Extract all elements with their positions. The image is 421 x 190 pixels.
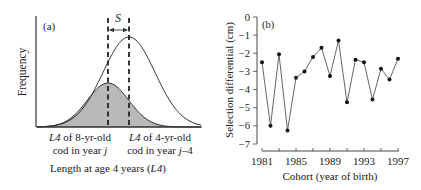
data-point	[379, 67, 383, 71]
b-y-axis-title: Selection differential (cm)	[223, 22, 236, 138]
y-tick-label: −6	[239, 120, 250, 131]
data-point	[388, 78, 392, 82]
a-x-axis-title: Length at age 4 years (L4)	[50, 162, 166, 175]
data-point	[269, 124, 273, 128]
x-tick-label: 1989	[319, 155, 342, 167]
data-point	[371, 98, 375, 102]
data-points	[260, 39, 400, 133]
survivor-distribution-curve	[37, 83, 201, 127]
y-tick-label: −3	[239, 66, 250, 77]
data-point	[260, 60, 264, 64]
data-point	[337, 39, 341, 43]
panel-a: S (a) Frequency L4 of 8-yr-old cod in ye…	[16, 11, 202, 175]
x-tick-label: 1981	[251, 155, 273, 167]
y-tick-label: −4	[239, 84, 251, 95]
data-point	[311, 55, 315, 59]
panel-a-label: (a)	[43, 20, 56, 33]
data-point	[362, 60, 366, 64]
data-point	[320, 46, 324, 50]
data-point	[303, 69, 307, 73]
data-point	[345, 100, 349, 104]
selection-differential-line	[262, 41, 398, 131]
y-tick-label: −7	[239, 139, 250, 150]
y-tick-label: −5	[239, 102, 250, 113]
data-point	[328, 74, 332, 78]
data-point	[294, 76, 298, 80]
x-tick-label: 1997	[387, 155, 410, 167]
data-point	[277, 52, 281, 56]
figure: S (a) Frequency L4 of 8-yr-old cod in ye…	[0, 0, 421, 190]
a-y-axis-title: Frequency	[16, 47, 29, 96]
selection-differential-arrow	[109, 28, 128, 32]
panel-b: 0−1−2−3−4−5−6−7 19811985198919931997 (b)…	[223, 12, 410, 184]
annotation-4yr-line1: L4 of 4-yr-old	[128, 131, 192, 143]
y-tick-label: −1	[239, 30, 250, 41]
y-tick-label: −2	[239, 48, 250, 59]
annotation-8yr-line2: cod in year j	[53, 144, 108, 156]
panel-b-label: (b)	[262, 19, 275, 31]
data-point	[354, 58, 358, 62]
data-point	[396, 57, 400, 61]
b-y-ticks: 0−1−2−3−4−5−6−7	[239, 12, 257, 150]
x-tick-label: 1993	[353, 155, 376, 167]
b-x-axis-title: Cohort (year of birth)	[283, 170, 378, 183]
x-tick-label: 1985	[285, 155, 308, 167]
y-tick-label: 0	[245, 12, 250, 23]
annotation-4yr-line2: cod in year j–4	[127, 144, 193, 156]
data-point	[286, 128, 290, 132]
selection-label: S	[115, 11, 121, 25]
annotation-8yr-line1: L4 of 8-yr-old	[48, 131, 112, 143]
